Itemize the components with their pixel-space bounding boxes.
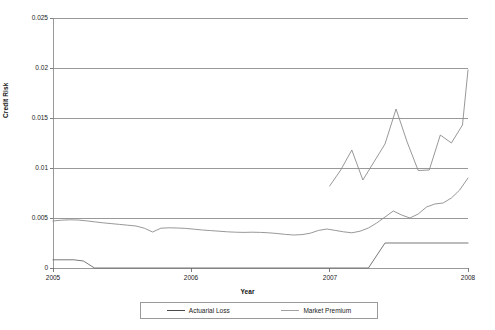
legend-label-market-premium: Market Premium bbox=[303, 307, 351, 314]
legend-item-actuarial-loss: Actuarial Loss bbox=[167, 307, 230, 314]
legend: Actuarial Loss Market Premium bbox=[140, 302, 378, 319]
legend-swatch-market-premium bbox=[281, 310, 299, 311]
credit-risk-line-chart: Credit Risk Year 0.025 0.02 0.015 0.01 0… bbox=[0, 0, 495, 330]
series-lines bbox=[53, 70, 468, 268]
gridlines bbox=[53, 18, 468, 268]
legend-label-actuarial-loss: Actuarial Loss bbox=[189, 307, 230, 314]
legend-swatch-actuarial-loss bbox=[167, 310, 185, 311]
legend-item-market-premium: Market Premium bbox=[281, 307, 351, 314]
tick-marks bbox=[50, 18, 468, 272]
plot-area bbox=[0, 0, 495, 330]
